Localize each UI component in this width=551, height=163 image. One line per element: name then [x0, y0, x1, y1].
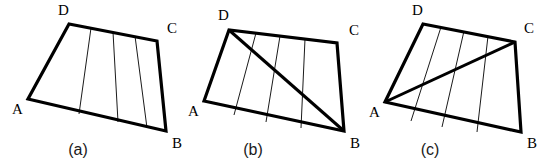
- panel-caption: (a): [68, 141, 88, 158]
- strip-divider-line: [442, 31, 464, 127]
- vertex-label-a: A: [369, 104, 380, 120]
- vertex-label-d: D: [58, 2, 69, 18]
- strip-divider-line: [266, 36, 280, 122]
- figure-root: ABCD(a)ABCD(b)ABCD(c): [0, 0, 551, 163]
- strip-divider-line: [113, 32, 118, 122]
- vertex-label-c: C: [167, 20, 177, 36]
- vertex-label-d: D: [412, 2, 423, 18]
- panel-caption: (c): [421, 141, 440, 158]
- vertex-label-b: B: [172, 135, 182, 151]
- panel-caption: (b): [243, 141, 263, 158]
- figure-canvas: ABCD(a)ABCD(b)ABCD(c): [0, 0, 551, 163]
- strip-divider-line: [301, 39, 305, 128]
- vertex-label-c: C: [524, 20, 534, 36]
- quadrilateral-outline: [204, 30, 344, 131]
- panel-a: ABCD(a): [12, 2, 182, 158]
- panels-group: ABCD(a)ABCD(b)ABCD(c): [12, 2, 537, 158]
- vertex-label-c: C: [349, 22, 359, 38]
- panel-c: ABCD(c): [369, 2, 537, 158]
- vertex-label-a: A: [12, 101, 23, 117]
- strip-divider-line: [477, 36, 488, 132]
- vertex-label-a: A: [188, 103, 199, 119]
- diagonal-db: [229, 30, 344, 131]
- vertex-label-b: B: [350, 135, 360, 151]
- strip-divider-line: [135, 36, 147, 128]
- vertex-label-d: D: [218, 7, 229, 23]
- panel-b: ABCD(b): [188, 7, 360, 158]
- vertex-label-b: B: [527, 135, 537, 151]
- strip-divider-line: [79, 28, 91, 114]
